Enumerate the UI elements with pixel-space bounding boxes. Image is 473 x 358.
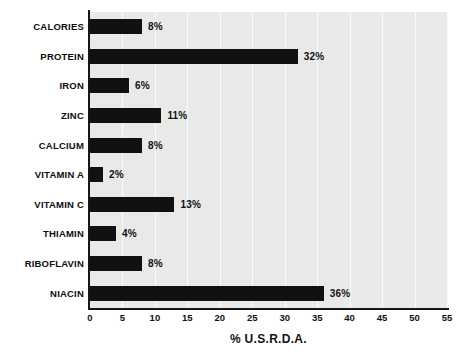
category-label: VITAMIN A — [35, 160, 84, 190]
category-axis-labels: CALORIESPROTEINIRONZINCCALCIUMVITAMIN AV… — [0, 12, 84, 308]
x-tick-label: 45 — [377, 312, 388, 323]
category-label: CALORIES — [33, 12, 84, 42]
bar-row: 4% — [90, 219, 447, 249]
bar-value-label: 8% — [148, 140, 163, 151]
x-tick-label: 35 — [312, 312, 323, 323]
x-tick-label: 5 — [120, 312, 125, 323]
x-tick-label: 55 — [442, 312, 453, 323]
bar-row: 2% — [90, 160, 447, 190]
bar — [90, 49, 298, 64]
bar — [90, 138, 142, 153]
bar-row: 36% — [90, 278, 447, 308]
category-label: RIBOFLAVIN — [25, 249, 84, 279]
category-label: VITAMIN C — [34, 190, 84, 220]
bar-value-label: 13% — [180, 199, 201, 210]
category-label: CALCIUM — [39, 130, 84, 160]
gridline — [447, 12, 448, 308]
bar — [90, 108, 161, 123]
bar — [90, 167, 103, 182]
bar — [90, 78, 129, 93]
bar-value-label: 36% — [330, 288, 351, 299]
bar — [90, 197, 174, 212]
bar-value-label: 4% — [122, 228, 137, 239]
x-tick-label: 0 — [87, 312, 92, 323]
category-label: NIACIN — [50, 278, 84, 308]
category-label: IRON — [59, 71, 84, 101]
x-axis-line — [88, 308, 449, 310]
bar-value-label: 2% — [109, 169, 124, 180]
bar-chart: CALORIESPROTEINIRONZINCCALCIUMVITAMIN AV… — [0, 0, 473, 358]
x-tick-label: 40 — [344, 312, 355, 323]
x-tick-label: 20 — [215, 312, 226, 323]
bar-row: 8% — [90, 12, 447, 42]
category-label: PROTEIN — [40, 42, 84, 72]
bar-row: 6% — [90, 71, 447, 101]
category-label: THIAMIN — [43, 219, 84, 249]
bar-value-label: 6% — [135, 80, 150, 91]
bar-value-label: 8% — [148, 21, 163, 32]
x-tick-label: 15 — [182, 312, 193, 323]
bar-row: 8% — [90, 130, 447, 160]
x-tick-label: 10 — [150, 312, 161, 323]
x-tick-label: 25 — [247, 312, 258, 323]
bar-value-label: 11% — [167, 110, 187, 121]
bars-layer: 8%32%6%11%8%2%13%4%8%36% — [90, 12, 447, 308]
bar — [90, 19, 142, 34]
bar-row: 13% — [90, 190, 447, 220]
bar-row: 32% — [90, 42, 447, 72]
bar — [90, 226, 116, 241]
bar-value-label: 8% — [148, 258, 163, 269]
x-axis-title: % U.S.R.D.A. — [90, 332, 447, 346]
x-axis-tick-labels: 0510152025303540455055 — [90, 312, 447, 328]
bar-value-label: 32% — [304, 51, 325, 62]
bar-row: 11% — [90, 101, 447, 131]
bar-row: 8% — [90, 249, 447, 279]
bar — [90, 286, 324, 301]
x-tick-label: 30 — [279, 312, 290, 323]
category-label: ZINC — [61, 101, 84, 131]
x-tick-label: 50 — [409, 312, 420, 323]
bar — [90, 256, 142, 271]
